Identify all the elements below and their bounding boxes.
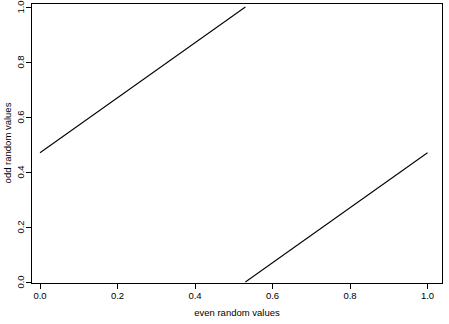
y-axis-title: odd random values xyxy=(2,102,13,183)
x-tick-label: 1.0 xyxy=(421,290,434,301)
y-tick-label: 0.8 xyxy=(15,55,26,68)
plot-canvas: 0.00.20.40.60.81.0 0.00.20.40.60.81.0 ev… xyxy=(0,0,449,324)
chart-background xyxy=(0,0,449,324)
x-tick-label: 0.4 xyxy=(188,290,201,301)
chart-svg: 0.00.20.40.60.81.0 0.00.20.40.60.81.0 ev… xyxy=(0,0,449,324)
x-axis-title: even random values xyxy=(194,307,280,318)
x-tick-label: 0.6 xyxy=(266,290,279,301)
y-tick-label: 0.2 xyxy=(15,220,26,233)
x-tick-label: 0.8 xyxy=(343,290,356,301)
y-tick-label: 0.6 xyxy=(15,110,26,123)
y-tick-label: 0.4 xyxy=(15,165,26,178)
x-tick-label: 0.2 xyxy=(111,290,124,301)
x-tick-label: 0.0 xyxy=(33,290,46,301)
y-tick-label: 0.0 xyxy=(15,275,26,288)
y-tick-label: 1.0 xyxy=(15,0,26,13)
